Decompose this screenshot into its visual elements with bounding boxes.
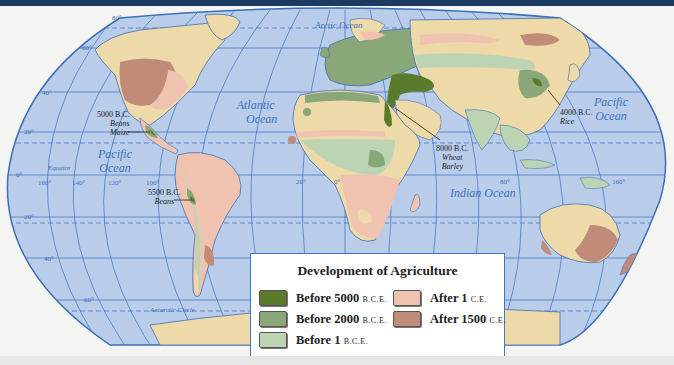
ocean-label-pacific-east: Pacific Ocean: [594, 95, 628, 123]
legend-item-after-1500: After 1500 C.E.: [393, 311, 506, 327]
lon-label-160e: 160°: [612, 178, 625, 186]
pacific-east-label-line1: Pacific: [594, 95, 628, 109]
legend-label: After 1 C.E.: [430, 291, 487, 306]
annotation-mesoamerica: 5000 B.C. Beans Maize: [97, 110, 130, 137]
lat-label-60n: 60°: [82, 44, 92, 52]
legend-label: Before 1 B.C.E.: [296, 333, 368, 348]
annotation-crop: Barley: [436, 162, 469, 171]
lon-label-20w: 20°: [296, 178, 306, 186]
atlantic-label-line2: Ocean: [246, 112, 277, 126]
pacific-west-label-line2: Ocean: [98, 161, 132, 175]
annotation-date: 8000 B.C.: [436, 144, 469, 153]
lat-label-20s: 20°: [24, 213, 34, 221]
annotation-fertile-crescent: 8000 B.C. Wheat Barley: [436, 144, 469, 171]
arctic-ocean-label: Arctic Ocean: [315, 20, 362, 30]
ocean-label-indian: Indian Ocean: [450, 186, 516, 201]
lon-label-160w: 160°: [38, 179, 51, 187]
legend-swatch: [259, 332, 287, 348]
lat-label-0: 0°: [16, 171, 22, 179]
annotation-crop: Beans: [148, 197, 181, 206]
lon-label-80e: 80°: [500, 178, 510, 186]
lat-label-40s: 40°: [44, 255, 54, 263]
pacific-west-label-line1: Pacific: [98, 147, 132, 161]
legend-label: Before 5000 B.C.E.: [296, 291, 387, 306]
antarctic-circle-label: Antarctic Circle: [150, 306, 195, 314]
annotation-crop: Rice: [560, 117, 593, 126]
atlantic-label-line1: Atlantic: [234, 98, 277, 112]
annotation-east-asia: 4000 B.C. Rice: [560, 108, 593, 126]
legend-title: Development of Agriculture: [251, 263, 504, 279]
legend-item-before-5000: Before 5000 B.C.E.: [259, 290, 387, 306]
legend-swatch: [259, 290, 287, 306]
annotation-date: 5500 B.C.: [148, 188, 181, 197]
lon-label-140w: 140°: [72, 179, 85, 187]
lat-label-40n: 40°: [42, 89, 52, 97]
legend-swatch: [393, 290, 421, 306]
ocean-label-pacific-west: Pacific Ocean: [98, 147, 132, 175]
annotation-date: 4000 B.C.: [560, 108, 593, 117]
lat-label-60s: 60°: [84, 296, 94, 304]
annotation-crop: Beans: [97, 119, 130, 128]
bottom-strip: [0, 356, 674, 365]
legend: Development of Agriculture Before 5000 B…: [250, 253, 505, 357]
annotation-crop: Wheat: [436, 153, 469, 162]
equator-label: Equator: [48, 164, 71, 172]
legend-swatch: [259, 311, 287, 327]
annotation-crop: Maize: [97, 128, 130, 137]
annotation-date: 5000 B.C.: [97, 110, 130, 119]
legend-item-after-1: After 1 C.E.: [393, 290, 487, 306]
pacific-east-label-line2: Ocean: [594, 109, 628, 123]
canary-island-marker: [288, 136, 296, 144]
lon-label-100w: 100°: [146, 179, 159, 187]
legend-swatch: [393, 311, 421, 327]
lon-label-120w: 120°: [108, 179, 121, 187]
lat-label-80n: 80°: [112, 14, 122, 22]
legend-label: Before 2000 B.C.E.: [296, 312, 387, 327]
ocean-label-atlantic: Atlantic Ocean: [234, 98, 277, 126]
lon-label-0: 0°: [334, 178, 340, 186]
ocean-label-arctic: Arctic Ocean: [315, 20, 362, 30]
legend-item-before-1: Before 1 B.C.E.: [259, 332, 368, 348]
azores-marker: [303, 108, 311, 116]
legend-item-before-2000: Before 2000 B.C.E.: [259, 311, 387, 327]
annotation-andes: 5500 B.C. Beans: [148, 188, 181, 206]
legend-label: After 1500 C.E.: [430, 312, 506, 327]
lat-label-20n: 20°: [24, 128, 34, 136]
indian-ocean-label: Indian Ocean: [450, 186, 516, 200]
